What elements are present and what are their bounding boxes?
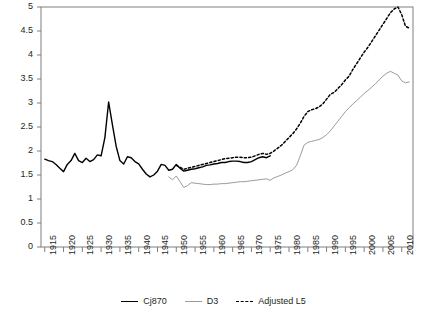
x-tick-label: 2010 [406, 235, 415, 255]
y-tick-label: 3.5 [0, 74, 33, 83]
x-tick-label: 1945 [161, 235, 170, 255]
legend-item[interactable]: Cj870 [121, 297, 167, 306]
y-axis-tick-marks [37, 7, 41, 247]
x-tick-label: 1985 [312, 235, 321, 255]
x-tick-label: 1995 [349, 235, 358, 255]
legend-item-label: Cj870 [143, 297, 167, 306]
x-tick-label: 1940 [143, 235, 152, 255]
x-tick-label: 1925 [86, 235, 95, 255]
plot-border [41, 7, 413, 247]
x-tick-label: 1960 [218, 235, 227, 255]
x-tick-label: 1950 [180, 235, 189, 255]
legend-item[interactable]: D3 [185, 297, 219, 306]
x-tick-label: 1920 [68, 235, 77, 255]
y-tick-label: 2.5 [0, 122, 33, 131]
y-tick-label: 5 [0, 2, 33, 11]
x-tick-label: 1965 [237, 235, 246, 255]
x-tick-label: 1915 [49, 235, 58, 255]
x-tick-label: 1975 [274, 235, 283, 255]
x-tick-label: 2000 [368, 235, 377, 255]
y-tick-label: 1.5 [0, 170, 33, 179]
x-tick-label: 1930 [105, 235, 114, 255]
legend-item[interactable]: Adjusted L5 [236, 297, 306, 306]
line-chart-figure: 00.511.522.533.544.55 191519201925193019… [0, 0, 427, 323]
legend-item-label: D3 [207, 297, 219, 306]
legend-item-label: Adjusted L5 [258, 297, 306, 306]
x-tick-label: 1955 [199, 235, 208, 255]
y-tick-label: 1 [0, 194, 33, 203]
y-tick-label: 3 [0, 98, 33, 107]
x-tick-label: 1980 [293, 235, 302, 255]
y-tick-label: 2 [0, 146, 33, 155]
y-tick-label: 4 [0, 50, 33, 59]
y-tick-label: 0.5 [0, 218, 33, 227]
y-tick-label: 0 [0, 242, 33, 251]
legend-line-swatch-icon [236, 301, 253, 302]
legend-line-swatch-icon [121, 301, 138, 302]
chart-plot-area [0, 0, 427, 323]
x-tick-label: 1990 [331, 235, 340, 255]
y-tick-label: 4.5 [0, 26, 33, 35]
x-tick-label: 1970 [255, 235, 264, 255]
x-tick-label: 2005 [387, 235, 396, 255]
chart-legend: Cj870D3Adjusted L5 [0, 297, 427, 306]
legend-line-swatch-icon [185, 301, 202, 302]
x-tick-label: 1935 [124, 235, 133, 255]
plot-frame [41, 7, 413, 247]
